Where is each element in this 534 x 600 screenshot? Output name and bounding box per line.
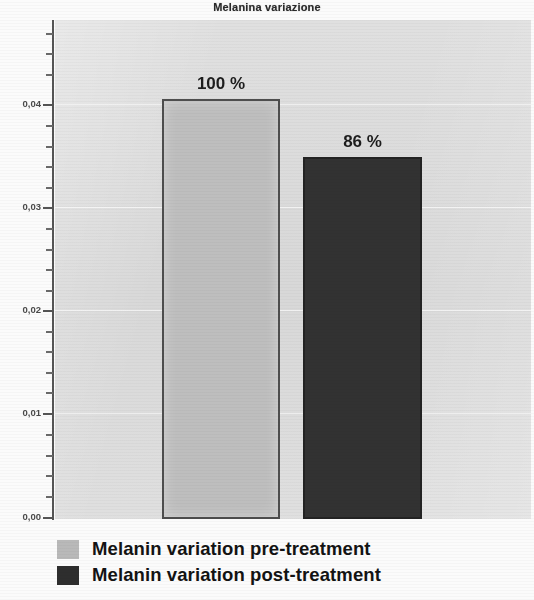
y-tick-major-0-02 (43, 310, 53, 312)
y-tick-minor (46, 228, 53, 230)
legend-swatch-post-treatment (57, 566, 79, 585)
chart-title: Melanina variazione (0, 1, 534, 13)
gridline-0-01 (55, 413, 531, 414)
plot-area (55, 20, 531, 519)
y-tick-major-0-03 (43, 207, 53, 209)
legend-item-post-treatment[interactable]: Melanin variation post-treatment (57, 562, 527, 588)
y-tick-minor (46, 269, 53, 271)
y-tick-minor (46, 33, 53, 35)
y-axis-label-0-03: 0,03 (1, 201, 41, 212)
y-tick-minor (46, 166, 53, 168)
y-axis-label-0-00: 0,00 (1, 511, 41, 522)
y-tick-minor (46, 187, 53, 189)
y-tick-minor (46, 351, 53, 353)
y-axis-label-0-01: 0,01 (1, 407, 41, 418)
y-tick-minor (46, 496, 53, 498)
y-axis-label-0-02: 0,02 (1, 304, 41, 315)
y-tick-minor (46, 331, 53, 333)
y-tick-minor (46, 125, 53, 127)
legend-label-pre-treatment: Melanin variation pre-treatment (92, 540, 371, 559)
legend-item-pre-treatment[interactable]: Melanin variation pre-treatment (57, 536, 527, 562)
y-tick-minor (46, 434, 53, 436)
y-tick-minor (46, 290, 53, 292)
panel-sheen (55, 20, 531, 519)
y-tick-major-0-00 (43, 517, 53, 519)
y-axis-labels: 0,04 0,03 0,02 0,01 0,00 (0, 0, 41, 600)
y-tick-major-0-04 (43, 104, 53, 106)
y-axis-label-0-04: 0,04 (1, 98, 41, 109)
gridline-0-02 (55, 310, 531, 311)
y-tick-minor (46, 372, 53, 374)
gridline-0-04 (55, 104, 531, 105)
y-tick-minor (46, 74, 53, 76)
y-tick-minor (46, 475, 53, 477)
y-tick-minor (46, 146, 53, 148)
y-tick-minor (46, 392, 53, 394)
y-tick-minor (46, 455, 53, 457)
legend-swatch-pre-treatment (57, 540, 79, 559)
bar-pre-treatment[interactable] (162, 99, 280, 519)
legend-label-post-treatment: Melanin variation post-treatment (92, 566, 381, 585)
chart-legend: Melanin variation pre-treatment Melanin … (57, 536, 527, 588)
bar-post-treatment[interactable] (303, 157, 422, 519)
melanin-variation-chart: Melanina variazione 0,04 0,03 0,02 0,01 … (0, 0, 534, 600)
y-tick-minor (46, 53, 53, 55)
gridline-0-03 (55, 207, 531, 208)
y-tick-major-0-01 (43, 413, 53, 415)
y-tick-minor (46, 249, 53, 251)
bar-value-post-treatment: 86 % (283, 132, 442, 152)
bar-value-pre-treatment: 100 % (142, 74, 300, 94)
